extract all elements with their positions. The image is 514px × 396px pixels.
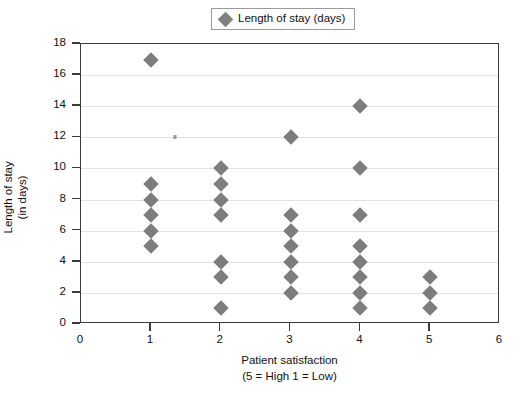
data-point-marker	[353, 285, 369, 301]
y-axis-tick	[72, 42, 80, 44]
plot-area	[80, 43, 499, 323]
data-point-marker	[353, 207, 369, 223]
y-axis-title-line2: (in days)	[16, 175, 28, 219]
data-point-marker	[143, 207, 159, 223]
y-axis-tick-label: 18	[20, 37, 66, 49]
x-axis-title-line1: Patient satisfaction	[241, 354, 338, 366]
x-axis-tick-label: 2	[200, 334, 240, 346]
scan-artifact	[174, 135, 177, 139]
y-axis-tick	[72, 73, 80, 75]
y-axis-tick-label: 14	[20, 99, 66, 111]
gridline	[81, 106, 498, 107]
data-point-marker	[353, 238, 369, 254]
y-axis-tick-label: 2	[20, 286, 66, 298]
data-point-marker	[283, 238, 299, 254]
scatter-chart: Length of stay (days) 024681012141618 Le…	[0, 0, 514, 396]
data-point-marker	[283, 285, 299, 301]
x-axis-tick	[149, 323, 151, 331]
data-point-marker	[213, 254, 229, 270]
data-point-marker	[213, 161, 229, 177]
data-point-marker	[353, 301, 369, 317]
data-point-marker	[283, 207, 299, 223]
x-axis-tick-label: 0	[60, 334, 100, 346]
y-axis-title-line1: Length of stay	[2, 161, 14, 233]
data-point-marker	[353, 98, 369, 114]
x-axis-tick-label: 3	[270, 334, 310, 346]
data-point-marker	[213, 176, 229, 192]
data-point-marker	[353, 161, 369, 177]
x-axis-tick	[289, 323, 291, 331]
data-point-marker	[283, 223, 299, 239]
data-point-marker	[422, 301, 438, 317]
data-point-marker	[283, 130, 299, 146]
data-point-marker	[422, 270, 438, 286]
chart-legend: Length of stay (days)	[211, 8, 355, 30]
data-point-marker	[353, 270, 369, 286]
y-axis-tick-label: 16	[20, 68, 66, 80]
y-axis-tick	[72, 229, 80, 231]
x-axis-tick-label: 1	[130, 334, 170, 346]
gridline	[81, 75, 498, 76]
x-axis-tick	[219, 323, 221, 331]
y-axis-tick	[72, 136, 80, 138]
y-axis-title: Length of stay (in days)	[1, 112, 30, 282]
x-axis-tick-label: 4	[339, 334, 379, 346]
y-axis-tick	[72, 291, 80, 293]
y-axis-tick	[72, 167, 80, 169]
data-point-marker	[143, 52, 159, 68]
data-point-marker	[353, 254, 369, 270]
data-point-marker	[143, 238, 159, 254]
data-point-marker	[283, 254, 299, 270]
x-axis-tick	[359, 323, 361, 331]
diamond-marker-icon	[218, 11, 234, 27]
y-axis-tick	[72, 322, 80, 324]
gridline	[81, 168, 498, 169]
x-axis-title: Patient satisfaction (5 = High 1 = Low)	[80, 353, 499, 384]
data-point-marker	[422, 285, 438, 301]
x-axis-tick	[428, 323, 430, 331]
data-point-marker	[283, 270, 299, 286]
y-axis-tick	[72, 198, 80, 200]
data-point-marker	[213, 207, 229, 223]
data-point-marker	[213, 192, 229, 208]
x-axis-tick-label: 5	[409, 334, 449, 346]
legend-label-length-of-stay: Length of stay (days)	[238, 13, 345, 25]
data-point-marker	[143, 176, 159, 192]
y-axis-tick	[72, 104, 80, 106]
data-point-marker	[213, 270, 229, 286]
y-axis-tick	[72, 260, 80, 262]
y-axis-tick-label: 0	[20, 317, 66, 329]
data-point-marker	[143, 192, 159, 208]
data-point-marker	[213, 301, 229, 317]
x-axis-tick-label: 6	[479, 334, 514, 346]
x-axis-title-line2: (5 = High 1 = Low)	[242, 370, 337, 382]
data-point-marker	[143, 223, 159, 239]
